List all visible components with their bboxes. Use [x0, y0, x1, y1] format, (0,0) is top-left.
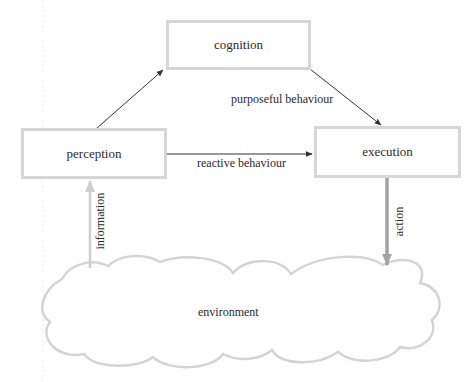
node-cognition: cognition: [166, 20, 311, 70]
node-environment-label: environment: [198, 305, 259, 320]
node-perception: perception: [21, 128, 167, 179]
node-cognition-label: cognition: [214, 37, 263, 53]
arrow-perception-to-cognition: [97, 70, 163, 128]
node-execution: execution: [314, 126, 461, 178]
edge-label-action: action: [392, 204, 407, 240]
node-perception-label: perception: [67, 146, 122, 162]
node-execution-label: execution: [362, 144, 413, 160]
edge-label-reactive-behaviour: reactive behaviour: [197, 156, 286, 171]
edge-label-information: information: [93, 194, 108, 250]
diagram-canvas: cognition perception execution purposefu…: [0, 0, 476, 382]
edge-label-purposeful-behaviour: purposeful behaviour: [231, 92, 333, 107]
